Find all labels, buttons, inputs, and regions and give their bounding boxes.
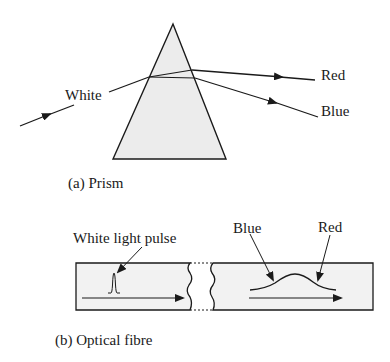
prism-caption: (a) Prism [68,176,123,191]
white-label: White [65,88,102,103]
red-label: Red [321,68,345,83]
blue-ray-out-arrow [195,78,276,103]
blue-ray-out [274,102,318,117]
red-ray-out-arrow [192,70,282,77]
fibre-caption: (b) Optical fibre [55,333,152,348]
red-label-fibre: Red [318,220,342,235]
red-ray-out [280,77,315,80]
white-light-pulse-label: White light pulse [73,231,176,246]
fibre-left-segment [76,263,192,310]
incident-ray [109,77,149,92]
blue-label: Blue [321,104,349,119]
incident-ray-segment [48,105,74,115]
fibre-right-segment [210,263,373,310]
blue-label-fibre: Blue [233,221,261,236]
dispersion-diagram [0,0,390,362]
prism-shape [113,24,226,159]
incident-ray-arrow [20,114,50,126]
